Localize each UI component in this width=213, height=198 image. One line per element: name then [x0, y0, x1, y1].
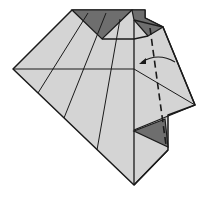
origami-diagram [0, 0, 213, 198]
